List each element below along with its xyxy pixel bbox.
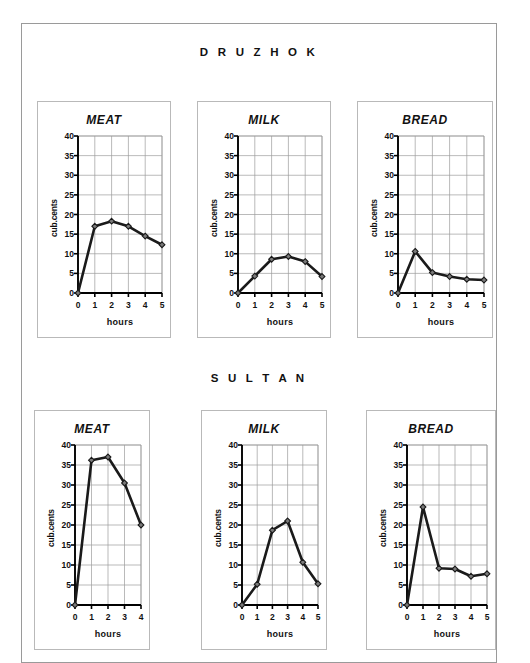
y-tick-label: 5 [377,581,403,589]
y-tick-label: 40 [368,132,394,140]
y-tick-label: 30 [208,171,234,179]
x-tick-label: 2 [99,613,117,621]
y-tick-label: 25 [48,191,74,199]
y-tick-label: 0 [48,289,74,297]
panel-druzhok-bread: BREAD 4035302520151050012345cub.centshou… [357,101,493,338]
y-axis-label: cub.cents [46,509,56,547]
panel-sultan-meat: MEAT 403530252015105001234cub.centshours [34,410,150,650]
x-tick-label: 3 [116,613,134,621]
x-axis-label: hours [78,317,162,327]
y-tick-label: 5 [48,269,74,277]
y-tick-label: 10 [208,250,234,258]
x-tick-label: 5 [153,301,171,309]
panel-title: BREAD [367,422,495,436]
x-tick-label: 1 [246,301,264,309]
x-tick-label: 2 [263,301,281,309]
panel-druzhok-meat: MEAT 4035302520151050012345cub.centshour… [37,101,171,338]
y-tick-label: 30 [212,481,238,489]
y-axis-label: cub.cents [378,509,388,547]
x-tick-label: 5 [313,301,331,309]
y-tick-label: 30 [45,481,71,489]
x-tick-label: 2 [423,301,441,309]
x-axis-label: hours [407,629,487,639]
document-page: D R U Z H O K MEAT 403530252015105001234… [21,23,497,663]
y-tick-label: 10 [45,561,71,569]
section-title-sultan: S U L T A N [22,372,496,384]
y-tick-label: 35 [368,152,394,160]
y-axis-label: cub.cents [213,509,223,547]
y-tick-label: 35 [208,152,234,160]
x-tick-label: 0 [69,301,87,309]
panel-title: BREAD [358,113,492,127]
y-tick-label: 40 [377,441,403,449]
x-tick-label: 4 [458,301,476,309]
panel-title: MEAT [38,113,170,127]
x-tick-label: 3 [119,301,137,309]
chart-druzhok-bread: 4035302520151050012345cub.centshours [358,128,494,339]
y-tick-label: 10 [377,561,403,569]
y-tick-label: 10 [212,561,238,569]
panel-title: MILK [202,422,326,436]
y-tick-label: 25 [208,191,234,199]
y-tick-label: 35 [48,152,74,160]
y-tick-label: 0 [208,289,234,297]
x-tick-label: 4 [296,301,314,309]
y-tick-label: 40 [208,132,234,140]
y-tick-label: 0 [368,289,394,297]
x-tick-label: 5 [309,613,327,621]
y-tick-label: 30 [48,171,74,179]
y-tick-label: 10 [48,250,74,258]
panel-title: MEAT [35,422,149,436]
panel-druzhok-milk: MILK 4035302520151050012345cub.centshour… [197,101,331,338]
x-tick-label: 3 [441,301,459,309]
x-tick-label: 0 [389,301,407,309]
y-tick-label: 25 [368,191,394,199]
x-axis-label: hours [242,629,318,639]
x-tick-label: 0 [66,613,84,621]
x-axis-label: hours [75,629,141,639]
y-tick-label: 40 [45,441,71,449]
x-tick-label: 2 [103,301,121,309]
y-tick-label: 0 [45,601,71,609]
y-tick-label: 5 [212,581,238,589]
chart-druzhok-meat: 4035302520151050012345cub.centshours [38,128,172,339]
y-tick-label: 35 [377,461,403,469]
x-tick-label: 0 [229,301,247,309]
y-tick-label: 25 [45,501,71,509]
y-axis-label: cub.cents [49,199,59,237]
y-tick-label: 40 [48,132,74,140]
x-tick-label: 4 [132,613,150,621]
y-tick-label: 40 [212,441,238,449]
panel-sultan-milk: MILK 4035302520151050012345cub.centshour… [201,410,327,650]
y-tick-label: 30 [377,481,403,489]
chart-sultan-meat: 403530252015105001234cub.centshours [35,437,151,651]
y-tick-label: 35 [212,461,238,469]
x-tick-label: 1 [83,613,101,621]
y-tick-label: 5 [45,581,71,589]
x-tick-label: 5 [478,613,496,621]
y-tick-label: 0 [377,601,403,609]
y-tick-label: 5 [368,269,394,277]
x-tick-label: 4 [136,301,154,309]
section-title-druzhok: D R U Z H O K [22,46,496,58]
y-axis-label: cub.cents [369,199,379,237]
panel-sultan-bread: BREAD 4035302520151050012345cub.centshou… [366,410,496,650]
y-tick-label: 25 [377,501,403,509]
y-tick-label: 0 [212,601,238,609]
x-tick-label: 5 [475,301,493,309]
panel-title: MILK [198,113,330,127]
x-tick-label: 3 [279,301,297,309]
chart-sultan-milk: 4035302520151050012345cub.centshours [202,437,328,651]
x-tick-label: 1 [86,301,104,309]
x-axis-label: hours [238,317,322,327]
y-tick-label: 10 [368,250,394,258]
chart-druzhok-milk: 4035302520151050012345cub.centshours [198,128,332,339]
y-tick-label: 30 [368,171,394,179]
y-tick-label: 5 [208,269,234,277]
y-axis-label: cub.cents [209,199,219,237]
chart-sultan-bread: 4035302520151050012345cub.centshours [367,437,497,651]
y-tick-label: 35 [45,461,71,469]
y-tick-label: 25 [212,501,238,509]
x-tick-label: 1 [406,301,424,309]
x-axis-label: hours [398,317,484,327]
